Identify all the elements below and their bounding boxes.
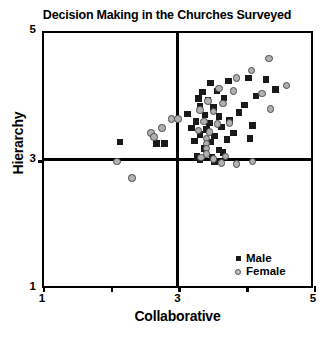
y-axis-title: Hierarchy <box>10 63 26 223</box>
data-point-female <box>150 133 158 141</box>
data-point-male <box>184 111 191 118</box>
data-point-male <box>236 109 243 116</box>
data-point-female <box>204 97 212 105</box>
data-point-female <box>248 67 256 75</box>
circle-marker-icon <box>232 269 244 275</box>
data-point-male <box>247 135 254 142</box>
legend-label-male: Male <box>244 252 272 265</box>
data-point-female <box>174 115 182 123</box>
data-point-female <box>214 120 222 128</box>
data-point-female <box>226 119 234 127</box>
data-point-male <box>241 102 248 109</box>
y-tick-label: 5 <box>20 23 36 35</box>
chart-legend: Male Female <box>232 252 286 278</box>
data-point-female <box>218 159 226 167</box>
data-point-female <box>196 106 204 114</box>
data-point-female <box>233 160 241 168</box>
x-tick-label: 5 <box>301 292 325 304</box>
x-tick-label: 3 <box>166 292 190 304</box>
data-point-female <box>283 82 291 90</box>
chart-title: Decision Making in the Churches Surveyed <box>0 8 334 22</box>
data-point-male <box>216 113 223 120</box>
data-point-female <box>200 118 208 126</box>
data-point-male <box>188 125 195 132</box>
data-point-male <box>191 138 198 145</box>
x-axis-title: Collaborative <box>42 308 313 324</box>
data-point-male <box>195 95 202 102</box>
square-marker-icon <box>232 256 244 261</box>
data-point-female <box>158 124 166 132</box>
data-point-male <box>245 75 252 82</box>
data-point-female <box>230 87 238 95</box>
scatter-chart: Decision Making in the Churches Surveyed… <box>0 0 334 340</box>
data-point-female <box>233 74 241 82</box>
data-point-female <box>128 174 136 182</box>
data-point-male <box>225 78 232 85</box>
data-point-female <box>249 158 257 166</box>
data-point-male <box>263 76 270 83</box>
data-point-female <box>215 85 223 93</box>
data-point-male <box>153 140 160 147</box>
data-point-female <box>219 100 227 108</box>
data-point-female <box>265 55 273 63</box>
legend-item-female: Female <box>232 265 286 278</box>
data-point-male <box>117 139 124 146</box>
data-point-male <box>207 80 214 87</box>
data-point-male <box>230 130 237 137</box>
data-point-male <box>249 122 256 129</box>
x-tick <box>246 286 249 292</box>
legend-label-female: Female <box>244 265 286 278</box>
x-tick-label: 1 <box>30 292 54 304</box>
plot-area <box>42 31 313 288</box>
data-point-female <box>258 90 266 98</box>
data-point-female <box>267 105 275 113</box>
data-point-female <box>210 155 218 163</box>
data-point-male <box>224 136 231 143</box>
legend-item-male: Male <box>232 252 286 265</box>
y-tick-label: 1 <box>20 280 36 292</box>
reference-line-horizontal <box>44 158 311 161</box>
data-point-male <box>272 86 279 93</box>
data-point-female <box>113 158 121 166</box>
y-tick <box>38 160 44 163</box>
data-point-male <box>161 140 168 147</box>
x-tick <box>111 286 114 292</box>
